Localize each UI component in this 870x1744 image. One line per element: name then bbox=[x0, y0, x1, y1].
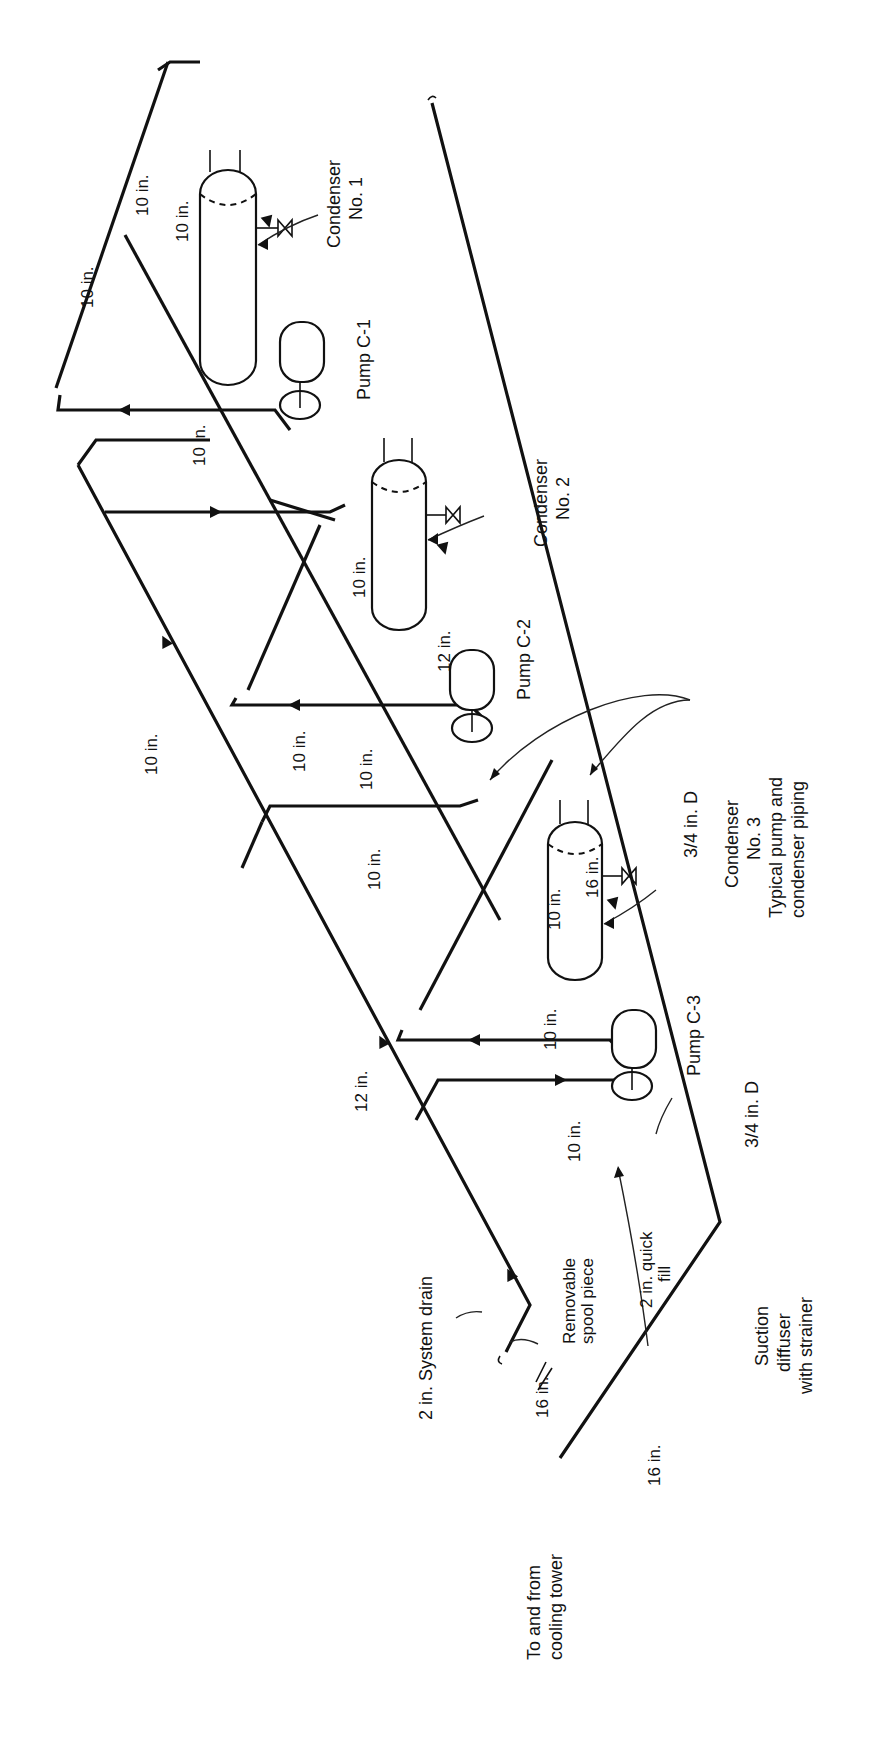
pipe-size-c3-b: 10 in. bbox=[545, 888, 564, 930]
system-drain-label: 2 in. System drain bbox=[416, 1276, 436, 1420]
pump-c1-label: Pump C-1 bbox=[354, 319, 374, 400]
suction-label-line3: with strainer bbox=[796, 1297, 816, 1395]
typical-note-line2: condenser piping bbox=[788, 781, 808, 918]
condenser-3-label-line1: Condenser bbox=[722, 800, 742, 888]
pipe-size-return-16: 16 in. bbox=[645, 1444, 664, 1486]
quick-fill-line1: 2 in. quick bbox=[637, 1231, 656, 1308]
pipe-size-c2-c: 10 in. bbox=[290, 730, 309, 772]
valve-c3-label: 3/4 in. D bbox=[681, 791, 701, 858]
pump-c2-label: Pump C-2 bbox=[514, 619, 534, 700]
pipe-size-c1-return: 10 in. bbox=[190, 424, 209, 466]
pipe-size-header-10: 10 in. bbox=[142, 733, 161, 775]
condenser-3 bbox=[548, 800, 656, 980]
spool-label-line1: Removable bbox=[560, 1258, 579, 1344]
inner-header bbox=[56, 62, 500, 920]
pump-c2 bbox=[450, 650, 494, 742]
condenser-2 bbox=[372, 438, 484, 630]
typical-note-line1: Typical pump and bbox=[766, 777, 786, 918]
pipe-size-c2-b: 12 in. bbox=[435, 630, 454, 672]
pipe-size-c3-c: 16 in. bbox=[583, 856, 602, 898]
quick-fill-line2: fill bbox=[655, 1266, 674, 1282]
pipe-size-top-c: 10 in. bbox=[78, 266, 97, 308]
pipe-size-supply-16: 16 in. bbox=[533, 1376, 552, 1418]
pipe-size-top-b: 10 in. bbox=[173, 200, 192, 242]
condenser-3-label-line2: No. 3 bbox=[744, 817, 764, 860]
condenser-3-branch bbox=[398, 760, 650, 1120]
pipe-size-header-12: 12 in. bbox=[352, 1070, 371, 1112]
suction-label-line2: diffuser bbox=[774, 1313, 794, 1372]
condenser-water-piping-diagram: Condenser No. 1 Condenser No. 2 Condense… bbox=[0, 0, 870, 1744]
labels: Condenser No. 1 Condenser No. 2 Condense… bbox=[78, 160, 816, 1660]
valve-bottom-label: 3/4 in. D bbox=[742, 1081, 762, 1148]
condenser-2-label-line2: No. 2 bbox=[553, 477, 573, 520]
pump-c3 bbox=[612, 1010, 656, 1100]
pipe-size-c2-a: 10 in. bbox=[350, 556, 369, 598]
typical-piping-leaders bbox=[490, 695, 690, 780]
condenser-2-label-line1: Condenser bbox=[531, 459, 551, 547]
pipe-size-c2-d: 10 in. bbox=[357, 748, 376, 790]
pump-c1 bbox=[280, 322, 324, 419]
pipe-size-c3-a: 10 in. bbox=[365, 848, 384, 890]
condenser-1-label-line1: Condenser bbox=[324, 160, 344, 248]
pipe-size-c3-e: 10 in. bbox=[565, 1120, 584, 1162]
condenser-1-label-line2: No. 1 bbox=[346, 177, 366, 220]
pump-c3-label: Pump C-3 bbox=[684, 995, 704, 1076]
cooling-tower-line2: cooling tower bbox=[546, 1554, 566, 1660]
pipe-size-c3-d: 10 in. bbox=[541, 1008, 560, 1050]
return-header bbox=[78, 440, 530, 1364]
spool-label-line2: spool piece bbox=[578, 1258, 597, 1344]
cooling-tower-line1: To and from bbox=[524, 1565, 544, 1660]
pipe-size-top-a: 10 in. bbox=[133, 174, 152, 216]
suction-label-line1: Suction bbox=[752, 1306, 772, 1366]
